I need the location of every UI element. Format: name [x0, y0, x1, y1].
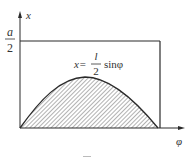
curve-label-prefix: x=: [73, 58, 86, 70]
sine-area-diagram: x φ a 2 x= l 2 sinφ: [0, 0, 195, 158]
caption-fragment: [83, 156, 91, 157]
y-axis-arrow-icon: [18, 11, 22, 18]
level-denominator: 2: [7, 41, 13, 55]
x-axis-label: φ: [176, 135, 182, 147]
x-axis-arrow-icon: [178, 126, 185, 130]
y-axis-label: x: [25, 9, 31, 21]
curve-label-denominator: 2: [93, 65, 99, 77]
level-numerator: a: [7, 25, 13, 39]
curve-label-numerator: l: [94, 50, 97, 62]
curve-label-suffix: sinφ: [104, 58, 123, 70]
